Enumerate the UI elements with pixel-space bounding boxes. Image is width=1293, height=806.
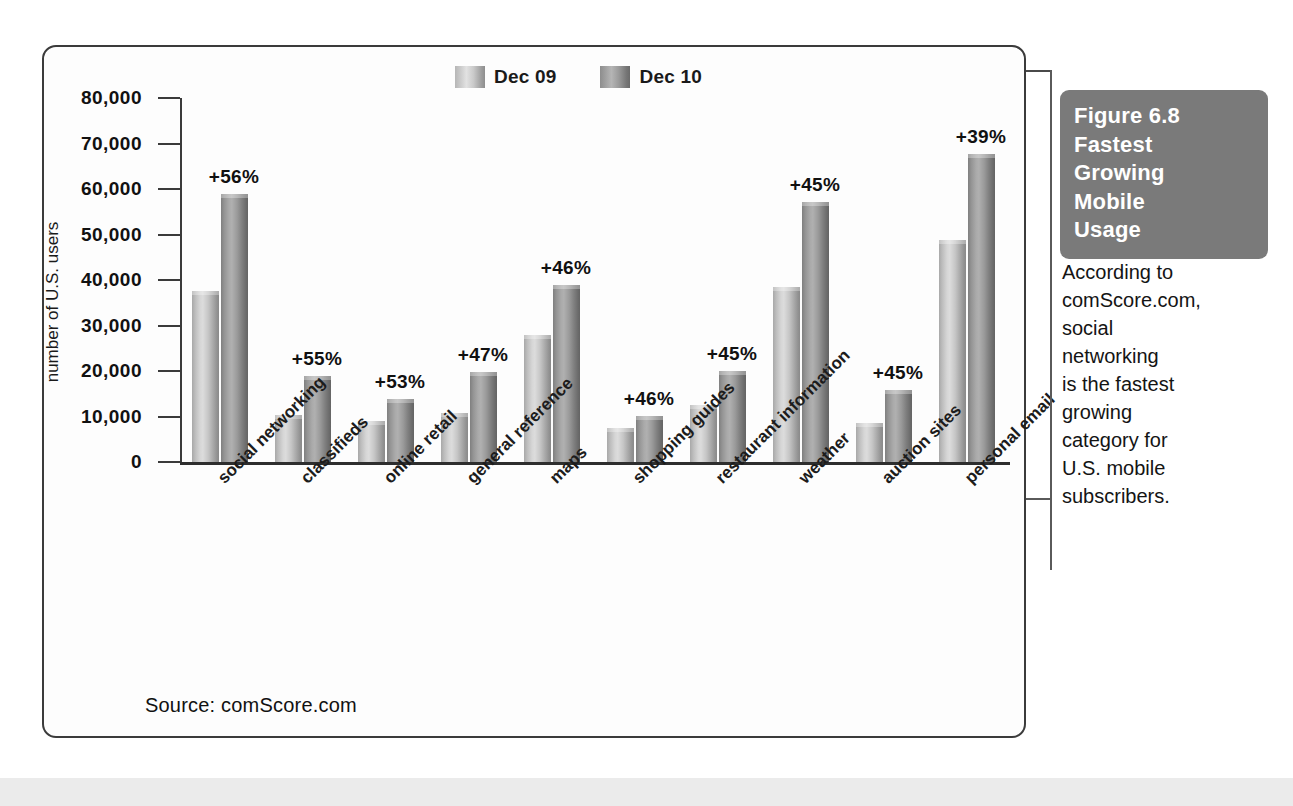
chart-frame xyxy=(42,45,1026,738)
caption-line: growing xyxy=(1062,398,1277,426)
caption-line: networking xyxy=(1062,342,1277,370)
legend-swatch-icon-dec-10 xyxy=(600,66,630,88)
caption-line: U.S. mobile xyxy=(1062,454,1277,482)
figure-title-box: Figure 6.8FastestGrowingMobileUsage xyxy=(1060,90,1268,259)
legend-item-dec-10: Dec 10 xyxy=(600,66,701,88)
caption-vertical-rule xyxy=(1050,70,1052,570)
caption-line: subscribers. xyxy=(1062,482,1277,510)
legend-swatch-icon-dec-09 xyxy=(455,66,485,88)
legend-label-dec-09: Dec 09 xyxy=(494,66,556,88)
figure-title-line: Growing xyxy=(1074,159,1254,188)
y-axis-title: number of U.S. users xyxy=(43,187,63,417)
figure-title-line: Figure 6.8 xyxy=(1074,102,1254,131)
figure-title-line: Fastest xyxy=(1074,131,1254,160)
legend-item-dec-09: Dec 09 xyxy=(455,66,556,88)
caption-connector-line xyxy=(1026,70,1052,72)
source-note: Source: comScore.com xyxy=(145,694,357,717)
caption-rule-tick xyxy=(1026,498,1052,500)
caption-line: social xyxy=(1062,314,1277,342)
page-scan-band xyxy=(0,778,1293,806)
figure-title-line: Mobile xyxy=(1074,188,1254,217)
caption-line: comScore.com, xyxy=(1062,286,1277,314)
caption-line: category for xyxy=(1062,426,1277,454)
legend-label-dec-10: Dec 10 xyxy=(639,66,701,88)
caption-body-text: According tocomScore.com,socialnetworkin… xyxy=(1062,258,1277,510)
caption-line: According to xyxy=(1062,258,1277,286)
figure-title-line: Usage xyxy=(1074,216,1254,245)
caption-line: is the fastest xyxy=(1062,370,1277,398)
chart-legend: Dec 09 Dec 10 xyxy=(455,66,702,88)
